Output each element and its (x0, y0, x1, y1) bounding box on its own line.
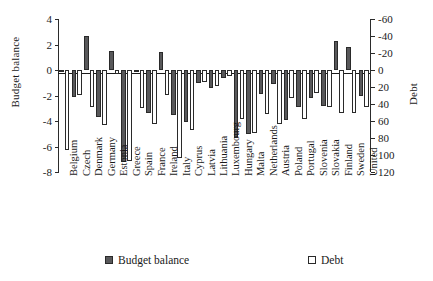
bar-budget-spain (134, 70, 139, 72)
bar-budget-ireland (159, 52, 164, 70)
bar-debt-finland (339, 70, 344, 113)
bar-debt-sweden (352, 70, 357, 113)
y-tick-label-left: -6 (43, 142, 52, 152)
bar-debt-cyprus (190, 70, 195, 130)
y-tick-label-left: 2 (47, 40, 53, 50)
bar-debt-germany (102, 70, 107, 125)
bar-debt-hungary (240, 70, 245, 119)
bar-budget-cyprus (184, 70, 189, 122)
legend-label-budget: Budget balance (118, 254, 189, 266)
bar-debt-ireland (165, 70, 170, 95)
bar-budget-united (359, 70, 364, 96)
bar-debt-lithuania (215, 70, 220, 86)
bar-budget-france (146, 70, 151, 113)
x-axis-label-france: France (156, 147, 167, 176)
x-axis-label-lithuania: Lithuania (218, 136, 229, 176)
bar-budget-sweden (346, 47, 351, 70)
bar-debt-poland (289, 70, 294, 98)
bar-budget-latvia (196, 70, 201, 83)
legend-item-debt: Debt (308, 254, 343, 266)
y-tick-label-right: -60 (378, 14, 393, 24)
bar-debt-spain (140, 70, 145, 108)
bar-budget-denmark (84, 36, 89, 70)
bar-budget-luxembourg (221, 70, 226, 78)
x-axis-label-belgium: Belgium (68, 140, 79, 176)
x-axis-label-czech: Czech (81, 150, 92, 176)
legend-swatch-budget-icon (105, 256, 113, 264)
bar-budget-slovenia (309, 70, 314, 98)
x-axis-label-spain: Spain (143, 152, 154, 176)
bar-budget-slovakia (321, 70, 326, 106)
y-axis-left-title: Budget balance (9, 27, 21, 117)
bar-debt-denmark (90, 70, 95, 107)
bar-debt-belgium (65, 70, 70, 150)
y-tick-label-left: 4 (47, 14, 53, 24)
bar-budget-germany (96, 70, 101, 117)
bar-budget-austria (271, 70, 276, 84)
chart-legend: Budget balance Debt (0, 252, 433, 272)
x-axis-label-latvia: Latvia (206, 149, 217, 176)
x-axis-label-luxembourg: Luxembourg (230, 122, 241, 176)
x-axis-label-poland: Poland (293, 147, 304, 176)
bar-budget-netherlands (259, 70, 264, 94)
bar-debt-luxembourg (227, 70, 232, 76)
bar-budget-italy (171, 70, 176, 115)
y-tick-label-right: 100 (378, 150, 395, 160)
bar-budget-belgium (59, 70, 64, 72)
x-axis-label-cyprus: Cyprus (193, 146, 204, 176)
legend-label-debt: Debt (321, 254, 343, 266)
x-axis-label-germany: Germany (106, 137, 117, 176)
y-tick-label-right: -20 (378, 48, 393, 58)
y-tick-right (371, 104, 375, 105)
y-tick-left (55, 172, 59, 173)
x-axis-label-austria: Austria (280, 145, 291, 176)
bar-debt-slovenia (314, 70, 319, 93)
bar-budget-estonia (109, 51, 114, 70)
y-tick-right (371, 121, 375, 122)
x-axis-label-sweden: Sweden (355, 143, 366, 176)
y-tick-label-right: 20 (378, 82, 389, 92)
bar-debt-united (364, 70, 369, 107)
bar-budget-finland (334, 41, 339, 70)
bar-debt-france (152, 70, 157, 124)
y-tick-label-left: -8 (43, 167, 52, 177)
x-axis-label-finland: Finland (343, 144, 354, 176)
y-tick-label-left: 0 (47, 65, 53, 75)
x-axis-label-ireland: Ireland (168, 146, 179, 176)
y-tick-right (371, 36, 375, 37)
y-tick-label-right: -40 (378, 31, 393, 41)
bar-debt-italy (177, 70, 182, 158)
x-axis-label-estonia: Estonia (118, 145, 129, 177)
bar-debt-slovakia (327, 70, 332, 107)
bar-debt-malta (252, 70, 257, 133)
bar-debt-austria (277, 70, 282, 124)
bar-debt-czech (77, 70, 82, 95)
x-axis-label-denmark: Denmark (93, 137, 104, 176)
y-tick-right (371, 138, 375, 139)
chart-figure: Budget balance Debt 420-2-4-6-8 -60-40-2… (0, 0, 433, 281)
y-tick-label-left: -2 (43, 91, 52, 101)
y-tick-label-right: 120 (378, 167, 395, 177)
bar-debt-portugal (302, 70, 307, 119)
bar-debt-estonia (115, 70, 120, 74)
y-tick-right (371, 19, 375, 20)
x-axis-label-slovenia: Slovenia (318, 139, 329, 176)
bar-budget-portugal (296, 70, 301, 107)
legend-item-budget-balance: Budget balance (105, 254, 189, 266)
x-axis-label-united: United (368, 147, 379, 176)
x-axis-label-italy: Italy (181, 157, 192, 176)
y-tick-right (371, 53, 375, 54)
x-axis-label-portugal: Portugal (305, 140, 316, 176)
bar-debt-netherlands (265, 70, 270, 114)
x-axis-label-hungary: Hungary (243, 139, 254, 176)
legend-swatch-debt-icon (308, 256, 316, 264)
bar-budget-malta (246, 70, 251, 134)
x-axis-label-slovakia: Slovakia (330, 139, 341, 176)
y-tick-right (371, 87, 375, 88)
y-tick-label-right: 80 (378, 133, 389, 143)
x-axis-label-malta: Malta (255, 152, 266, 177)
bar-debt-latvia (202, 70, 207, 82)
x-axis-label-netherlands: Netherlands (268, 125, 279, 176)
x-axis-label-greece: Greece (131, 146, 142, 176)
y-tick-right (371, 70, 375, 71)
